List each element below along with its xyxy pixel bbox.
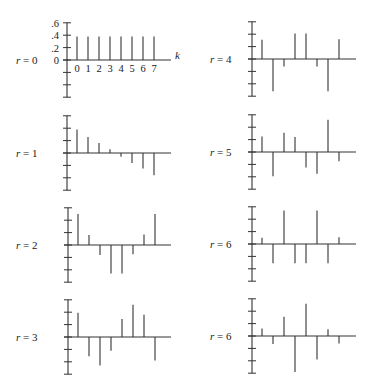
stem-panel-r2: r = 2: [16, 208, 171, 282]
stem-panel-r5: r = 5: [210, 115, 356, 189]
panel-label: r = 6: [210, 238, 232, 250]
x-tick-label: 4: [118, 63, 124, 74]
panel-label: r = 1: [16, 147, 38, 159]
stem-panel-r0: r = 0.6.4.2001234567k: [16, 18, 181, 97]
x-tick-label: 3: [107, 63, 112, 74]
panel-label: r = 0: [16, 54, 38, 66]
panel-label: r = 6: [210, 330, 232, 342]
x-tick-label: 2: [96, 63, 101, 74]
y-tick-label: 0: [54, 55, 59, 66]
x-tick-label: 6: [140, 63, 145, 74]
x-axis-label: k: [175, 49, 181, 61]
y-tick-label: .6: [51, 18, 59, 29]
panel-label: r = 2: [16, 239, 38, 251]
stem-panel-r4: r = 4: [210, 22, 356, 96]
x-tick-label: 7: [151, 63, 156, 74]
stem-panel-r3: r = 3: [16, 300, 171, 374]
panel-label: r = 4: [210, 53, 232, 65]
y-tick-label: .2: [51, 43, 59, 54]
stem-panel-r1: r = 1: [16, 116, 171, 190]
panel-label: r = 5: [210, 146, 232, 158]
panel-label: r = 3: [16, 331, 38, 343]
x-tick-label: 5: [129, 63, 134, 74]
stem-panel-r6: r = 6: [210, 299, 356, 373]
stem-plot-figure: r = 0.6.4.2001234567kr = 1r = 2r = 3r = …: [0, 0, 369, 385]
x-tick-label: 1: [85, 63, 90, 74]
y-tick-label: .4: [51, 30, 60, 41]
x-tick-label: 0: [74, 63, 79, 74]
stem-panel-r6: r = 6: [210, 207, 356, 281]
